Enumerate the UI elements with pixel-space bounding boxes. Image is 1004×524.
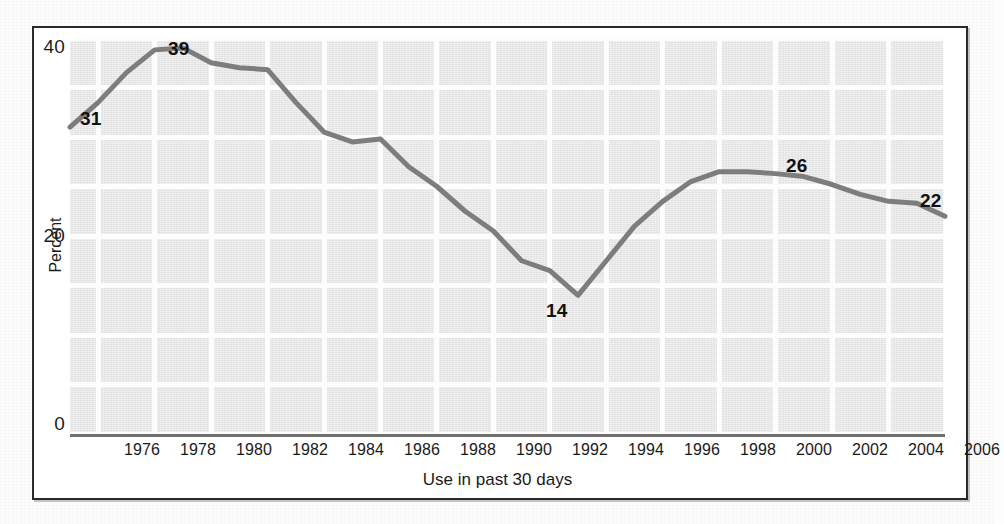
x-tick-label: 2002	[842, 441, 898, 459]
x-tick-label: 2006	[954, 441, 1004, 459]
data-label-31: 31	[80, 108, 102, 130]
y-tick-label: 0	[25, 413, 65, 435]
data-label-14: 14	[546, 300, 568, 322]
series-polyline	[70, 48, 945, 296]
x-tick-label: 1990	[506, 441, 562, 459]
y-tick-label: 40	[25, 36, 65, 58]
data-label-26: 26	[786, 155, 808, 177]
y-axis-title: Percent	[47, 185, 65, 305]
x-tick-label: 1988	[450, 441, 506, 459]
x-tick-label: 1976	[114, 441, 170, 459]
x-axis-line	[70, 434, 945, 437]
x-tick-label: 1992	[562, 441, 618, 459]
data-label-39: 39	[168, 38, 190, 60]
x-tick-label: 1994	[618, 441, 674, 459]
x-tick-label: 1996	[674, 441, 730, 459]
x-axis-title: Use in past 30 days	[0, 470, 995, 490]
x-tick-label: 1984	[338, 441, 394, 459]
x-tick-label: 1986	[394, 441, 450, 459]
x-tick-label: 1980	[226, 441, 282, 459]
x-tick-label: 1998	[730, 441, 786, 459]
x-tick-label: 2000	[786, 441, 842, 459]
x-tick-label: 1978	[170, 441, 226, 459]
data-label-22: 22	[920, 190, 942, 212]
x-tick-label: 2004	[898, 441, 954, 459]
data-series-line	[70, 38, 945, 434]
x-tick-label: 1982	[282, 441, 338, 459]
